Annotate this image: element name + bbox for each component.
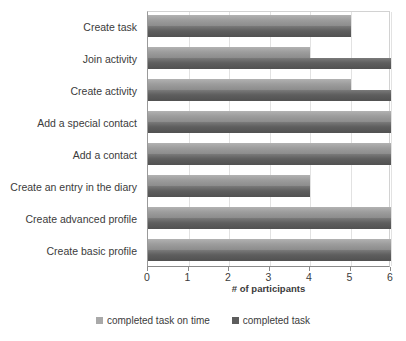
bar-group xyxy=(148,76,389,108)
legend-swatch-icon xyxy=(96,317,103,324)
x-axis-title: # of participants xyxy=(147,283,390,294)
legend-swatch-icon xyxy=(232,317,239,324)
category-label: Create task xyxy=(83,11,137,43)
bar xyxy=(148,143,391,154)
legend-item[interactable]: completed task xyxy=(232,315,310,326)
bar-group xyxy=(148,140,389,172)
x-tick-label: 1 xyxy=(178,271,198,283)
category-label: Join activity xyxy=(83,43,137,75)
bar-group xyxy=(148,236,389,268)
x-tick-label: 5 xyxy=(340,271,360,283)
legend-label: completed task on time xyxy=(107,315,210,326)
bar-chart: Create taskJoin activityCreate activityA… xyxy=(0,0,406,341)
gridline xyxy=(391,12,392,266)
chart-legend: completed task on timecompleted task xyxy=(0,315,406,326)
bar-group xyxy=(148,12,389,44)
category-label: Create an entry in the diary xyxy=(10,171,137,203)
x-tick-label: 4 xyxy=(299,271,319,283)
x-tick-label: 2 xyxy=(218,271,238,283)
bar xyxy=(148,250,391,261)
plot-area xyxy=(147,11,390,267)
category-axis-labels: Create taskJoin activityCreate activityA… xyxy=(0,11,142,267)
x-tick-label: 0 xyxy=(137,271,157,283)
category-label: Create activity xyxy=(70,75,137,107)
x-tick-label: 3 xyxy=(259,271,279,283)
bar xyxy=(148,239,391,250)
bar xyxy=(148,122,391,133)
bar xyxy=(148,218,391,229)
bar xyxy=(148,79,351,90)
bar xyxy=(148,15,351,26)
bar xyxy=(148,175,310,186)
legend-label: completed task xyxy=(243,315,310,326)
bar xyxy=(148,111,391,122)
bar xyxy=(148,90,391,101)
bar xyxy=(148,26,351,37)
bar xyxy=(148,47,310,58)
x-tick-label: 6 xyxy=(380,271,400,283)
legend-item[interactable]: completed task on time xyxy=(96,315,210,326)
category-label: Add a special contact xyxy=(37,107,137,139)
bar-group xyxy=(148,204,389,236)
category-label: Create advanced profile xyxy=(26,203,138,235)
bar xyxy=(148,207,391,218)
category-label: Add a contact xyxy=(73,139,137,171)
bar xyxy=(148,58,391,69)
bar-group xyxy=(148,44,389,76)
bar xyxy=(148,154,391,165)
bar xyxy=(148,186,310,197)
bar-group xyxy=(148,108,389,140)
bar-group xyxy=(148,172,389,204)
bar-rows xyxy=(148,12,389,266)
category-label: Create basic profile xyxy=(47,235,137,267)
